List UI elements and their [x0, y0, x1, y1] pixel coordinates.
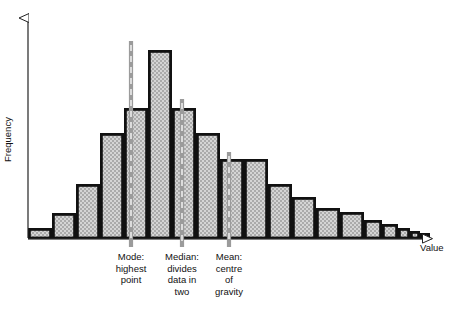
histogram-bar [77, 185, 98, 238]
histogram-bar [317, 209, 338, 238]
y-axis-label: Frequency [2, 117, 13, 162]
histogram-bar [365, 221, 380, 238]
histogram-bar [293, 198, 314, 238]
histogram-bar [411, 232, 418, 238]
histogram-bar [383, 225, 396, 238]
histogram-bar [125, 109, 146, 238]
histogram-bar [221, 160, 242, 238]
x-axis-label: Value [420, 242, 444, 253]
histogram-bar [197, 134, 218, 238]
histogram-bar [421, 234, 428, 238]
histogram-bar [341, 213, 362, 238]
histogram-bar [29, 229, 50, 238]
histogram-bar [149, 51, 170, 238]
histogram-bar [399, 229, 408, 238]
mean-caption: Mean: centre of gravity [196, 251, 262, 297]
histogram-bar [269, 185, 290, 238]
histogram-bar [101, 134, 122, 238]
histogram-figure: Frequency Value Mode: highest point Medi… [0, 0, 457, 310]
histogram-bar [53, 214, 74, 238]
histogram-bar [245, 160, 266, 238]
